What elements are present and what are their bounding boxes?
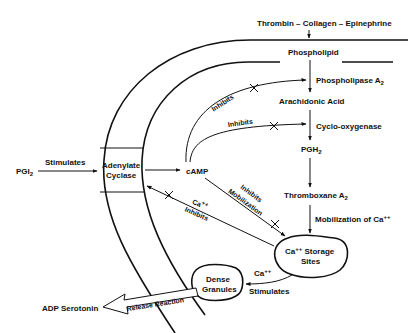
dense-granules-label-2: Granules <box>202 285 237 294</box>
thromboxane-label: Thromboxane A2 <box>284 191 349 201</box>
camp-inhibits-cyclo-arrow <box>190 124 306 162</box>
cyclo-oxygenase-label: Cyclo-oxygenase <box>316 122 382 131</box>
dense-granules-label-1: Dense <box>206 275 231 284</box>
inhibits-cyclo-label: Inhibits <box>228 118 254 128</box>
platelet-pathway-diagram: Thrombin – Collagen – Epinephrine Phosph… <box>0 0 411 333</box>
stimulates-pgi2-label: Stimulates <box>45 158 86 167</box>
phospholipid-label: Phospholipid <box>288 48 339 57</box>
storage-sites-label-2: Sites <box>301 257 321 266</box>
adenylate-cyclase-label-2: Cyclase <box>106 171 137 180</box>
camp-label: cAMP <box>186 167 209 176</box>
release-reaction-arrow: Release Reaction <box>103 288 198 314</box>
adenylate-cyclase-label-1: Adenylate <box>102 161 141 170</box>
ca-stimulates-arrow <box>246 275 292 284</box>
pgh2-label: PGH2 <box>301 145 322 155</box>
arachidonic-acid-label: Arachidonic Acid <box>279 97 345 106</box>
ca-stimulates-label-1: Ca++ <box>254 268 272 278</box>
storage-sites-label-1: Ca++ Storage <box>285 246 335 256</box>
inhibit-x-icon <box>250 84 258 92</box>
phospholipase-label: Phospholipase A2 <box>316 76 385 86</box>
agonists-label: Thrombin – Collagen – Epinephrine <box>257 19 392 28</box>
inhibit-x-icon <box>271 220 279 228</box>
inhibit-x-icon <box>270 122 278 130</box>
mobilization-ca-label: Mobilization of Ca++ <box>315 214 391 224</box>
adp-serotonin-label: ADP Serotonin <box>42 304 98 313</box>
inhibits-phospholipase-label: Inhibits <box>210 93 235 112</box>
ca-stimulates-label-2: Stimulates <box>249 287 290 296</box>
ca-inhibits-label-2: Inhibits <box>184 205 210 222</box>
pgi2-label: PGI2 <box>16 167 34 177</box>
